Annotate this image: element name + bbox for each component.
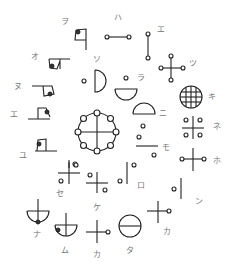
dot [137, 135, 141, 139]
dot [105, 35, 109, 39]
label-ki: キ [208, 92, 216, 101]
dot [56, 228, 60, 232]
dot [45, 110, 49, 114]
dot [81, 143, 87, 149]
label-ke: ケ [93, 203, 101, 212]
label-ha: ハ [114, 13, 122, 22]
label-ka1: カ [93, 250, 101, 259]
label-so: ソ [93, 55, 101, 64]
dot [74, 163, 78, 167]
symbol-nu: ヌ [14, 82, 54, 96]
label-ni: ニ [159, 109, 167, 118]
symbol-ke: ケ [86, 172, 108, 212]
dot [118, 179, 122, 183]
dot [94, 148, 100, 154]
label-e2: エ [10, 110, 18, 119]
dot [146, 32, 150, 36]
symbol-mo: モ [136, 124, 170, 157]
label-n: ン [195, 197, 203, 206]
dot [159, 66, 163, 70]
dot [180, 157, 184, 161]
dot [132, 163, 136, 167]
symbol-tsu: ツ [159, 54, 197, 82]
symbol-ha: ハ [105, 13, 131, 39]
symbol-n: ン [172, 178, 203, 206]
dome-glyph [133, 103, 155, 114]
symbol-ra: ラ [115, 73, 145, 100]
dot [48, 92, 52, 96]
dot [81, 116, 87, 122]
symbol-ni: ニ [133, 103, 167, 118]
dot [103, 188, 107, 192]
label-e: エ [157, 25, 165, 34]
symbol-center-wheel [75, 110, 119, 154]
symbol-wo: ヲ [61, 17, 86, 50]
dot [198, 133, 202, 137]
dot [146, 56, 150, 60]
label-ta: タ [126, 246, 134, 255]
dot [76, 30, 80, 34]
symbol-ta: タ [119, 215, 141, 255]
symbol-e-left: エ [10, 108, 50, 119]
symbol-o: オ [31, 52, 70, 69]
symbol-e-top: エ [146, 25, 165, 60]
symbol-na: ナ [27, 199, 49, 239]
dot [88, 173, 92, 177]
symbol-se: セ [56, 162, 80, 198]
label-o: オ [31, 52, 39, 61]
label-ho: ホ [213, 156, 221, 165]
dot [36, 220, 40, 224]
symbol-diagram: ヲ ハ エ ツ オ ソ ラ [0, 0, 237, 271]
dot [124, 76, 128, 80]
symbol-ka-bottom: カ [86, 220, 110, 259]
dot [152, 153, 156, 157]
dot [184, 133, 188, 137]
dot [106, 230, 110, 234]
symbol-ro: ロ [118, 162, 145, 190]
label-nu: ヌ [14, 82, 22, 91]
dot [169, 54, 173, 58]
label-se: セ [56, 189, 64, 198]
dot [172, 187, 176, 191]
dot [169, 78, 173, 82]
dot [75, 129, 81, 135]
dot [141, 124, 145, 128]
symbol-ki: キ [180, 86, 216, 108]
dot [198, 118, 202, 122]
dot [82, 79, 86, 83]
label-na: ナ [33, 230, 41, 239]
dot [202, 157, 206, 161]
symbol-ka-right: カ [147, 201, 171, 236]
dot [108, 143, 114, 149]
label-mo: モ [162, 143, 170, 152]
symbol-mu: ム [55, 213, 77, 255]
symbol-yu: ユ [19, 139, 57, 160]
label-ra: ラ [137, 73, 145, 82]
dot [181, 66, 185, 70]
dot [37, 142, 41, 146]
label-wo: ヲ [61, 17, 69, 26]
half-circle-glyph [95, 70, 106, 92]
bowl-glyph [115, 89, 137, 100]
label-ka2: カ [163, 227, 171, 236]
label-ro: ロ [137, 181, 145, 190]
symbol-so: ソ [82, 55, 106, 92]
dot [127, 35, 131, 39]
dot [94, 110, 100, 116]
symbol-ho: ホ [180, 148, 221, 171]
label-yu: ユ [19, 151, 27, 160]
dot [59, 179, 63, 183]
dot [113, 129, 119, 135]
dot [184, 118, 188, 122]
symbol-ne: ネ [182, 116, 221, 139]
dot [108, 116, 114, 122]
dot [167, 209, 171, 213]
label-ne: ネ [213, 122, 221, 131]
label-tsu: ツ [189, 59, 197, 68]
label-mu: ム [61, 246, 69, 255]
dot [50, 64, 54, 68]
